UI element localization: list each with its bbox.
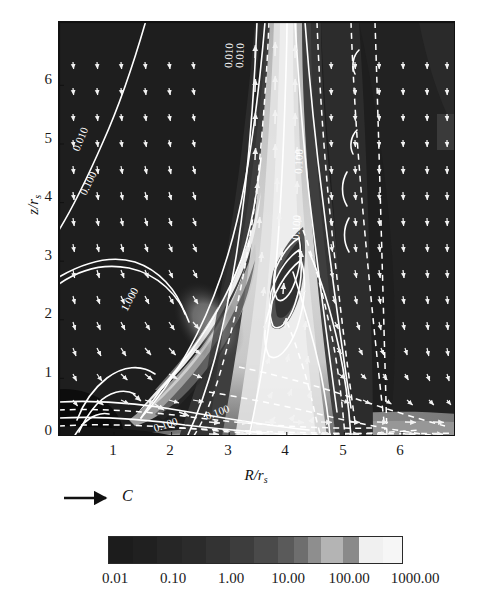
colorbar-segment — [109, 537, 133, 563]
x-tick-2: 2 — [158, 443, 182, 458]
x-tick-4: 4 — [273, 443, 297, 458]
colorbar-segment — [359, 537, 383, 563]
colorbar-labels: 0.01 0.10 1.00 10.00 100.00 1000.00 — [0, 570, 483, 594]
colorbar-segment — [308, 537, 321, 563]
colorbar-segment — [383, 537, 402, 563]
colorbar-container — [108, 536, 403, 564]
y-axis-denominator: r — [25, 199, 41, 205]
x-axis-numerator: R — [244, 467, 253, 483]
x-tick-1: 1 — [101, 443, 125, 458]
colorbar-segment — [294, 537, 307, 563]
svg-text:0.100: 0.100 — [289, 214, 303, 240]
colorbar-segment — [157, 537, 181, 563]
y-axis-denominator-sub: s — [32, 195, 43, 199]
y-tick-3: 3 — [30, 248, 52, 263]
colorbar-segment — [278, 537, 294, 563]
figure-root: 0.010 0.100 0.010 0.010 1.000 0.100 0.10… — [0, 0, 483, 608]
x-tick-3: 3 — [216, 443, 240, 458]
contour-plot-svg: 0.010 0.100 0.010 0.010 1.000 0.100 0.10… — [59, 22, 455, 436]
colorbar-segment — [182, 537, 206, 563]
contour-plot-panel: 0.010 0.100 0.010 0.010 1.000 0.100 0.10… — [58, 21, 455, 436]
colorbar-label-5: 1000.00 — [375, 570, 455, 587]
svg-text:0.100: 0.100 — [292, 148, 305, 174]
colorbar-segment — [206, 537, 230, 563]
colorbar-segment — [230, 537, 254, 563]
y-tick-6: 6 — [30, 72, 52, 87]
colorbar-segment — [343, 537, 359, 563]
colorbar — [108, 536, 403, 564]
y-axis-label: z/rs — [25, 175, 43, 235]
y-axis-numerator: z — [25, 209, 41, 215]
y-tick-5: 5 — [30, 131, 52, 146]
x-tick-6: 6 — [388, 443, 412, 458]
velocity-key-label: C — [122, 487, 133, 505]
svg-text:0.010: 0.010 — [233, 42, 246, 68]
colorbar-segment — [321, 537, 343, 563]
x-tick-5: 5 — [331, 443, 355, 458]
x-axis-label: R/rs — [196, 467, 316, 485]
colorbar-segment — [133, 537, 157, 563]
x-axis-denominator-sub: s — [264, 474, 268, 485]
y-tick-2: 2 — [30, 306, 52, 321]
y-tick-0: 0 — [30, 423, 52, 438]
y-tick-1: 1 — [30, 365, 52, 380]
colorbar-segment — [254, 537, 278, 563]
